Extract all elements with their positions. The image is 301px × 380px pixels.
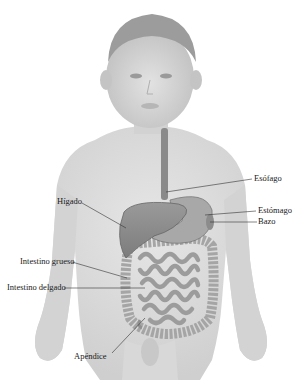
digestive-system-diagram: Esófago Hígado Estómago Bazo Intestino g… bbox=[0, 0, 301, 380]
label-spleen: Bazo bbox=[258, 216, 275, 226]
label-appendix: Apéndice bbox=[74, 351, 107, 361]
label-small-intestine: Intestino delgado bbox=[7, 282, 66, 292]
label-large-intestine: Intestino grueso bbox=[20, 256, 75, 266]
esophagus bbox=[161, 128, 168, 200]
head bbox=[100, 14, 202, 128]
label-esophagus: Esófago bbox=[254, 173, 282, 183]
body-illustration bbox=[0, 0, 301, 380]
label-stomach: Estómago bbox=[258, 205, 292, 215]
torso bbox=[35, 126, 267, 380]
label-liver: Hígado bbox=[57, 196, 82, 206]
